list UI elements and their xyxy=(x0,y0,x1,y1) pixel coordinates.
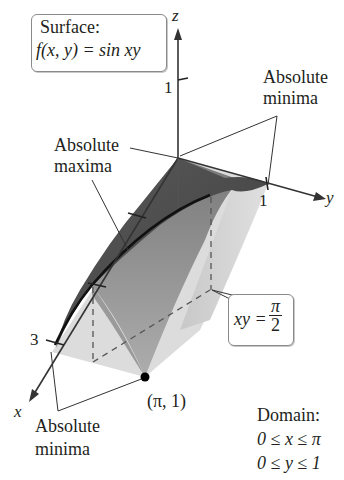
level-curve-lhs: xy = xyxy=(234,309,267,329)
absolute-minima-bottom-label-1: Absolute xyxy=(35,416,100,436)
point-pi-1 xyxy=(141,373,150,382)
absolute-maxima-label-1: Absolute xyxy=(54,135,119,155)
y-tick-label: 1 xyxy=(259,191,268,211)
y-axis-label: y xyxy=(326,188,334,208)
z-arrow-icon xyxy=(174,28,182,40)
domain-y-range: 0 ≤ y ≤ 1 xyxy=(257,453,321,473)
fraction-numerator: π xyxy=(269,297,282,316)
surface-function: f(x, y) = sin xy xyxy=(36,40,141,60)
absolute-minima-top-label-2: minima xyxy=(263,88,318,108)
point-label: (π, 1) xyxy=(147,391,186,411)
z-axis-label: z xyxy=(172,6,179,26)
z-tick-label: 1 xyxy=(164,78,173,98)
x-axis-label: x xyxy=(14,402,22,422)
absolute-maxima-label-2: maxima xyxy=(54,156,112,176)
y-arrow-icon xyxy=(313,192,326,201)
surface-title: Surface: xyxy=(40,17,100,37)
absolute-minima-bottom-label-2: minima xyxy=(35,439,90,459)
x-arrow-icon xyxy=(29,389,39,402)
domain-title: Domain: xyxy=(257,405,320,425)
x-tick-label: 3 xyxy=(30,330,39,350)
domain-x-range: 0 ≤ x ≤ π xyxy=(257,429,321,449)
level-curve-fraction: π2 xyxy=(266,297,282,334)
absolute-minima-top-label-1: Absolute xyxy=(263,67,328,87)
fraction-denominator: 2 xyxy=(269,316,282,334)
